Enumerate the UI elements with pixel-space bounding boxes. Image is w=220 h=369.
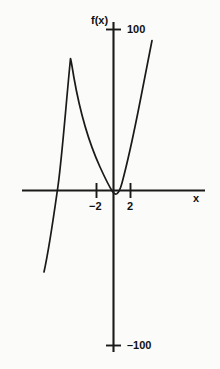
x-axis-label: x <box>193 192 200 204</box>
y-tick-label-100: 100 <box>127 23 145 35</box>
x-tick-label-minus-2: −2 <box>89 200 102 212</box>
x-tick-label-2: 2 <box>127 200 133 212</box>
y-tick-label-minus-100: –100 <box>127 339 151 351</box>
function-curve <box>44 41 152 273</box>
figure-canvas: f(x) 100 –100 −2 2 x <box>0 0 220 369</box>
y-axis-label: f(x) <box>91 14 108 26</box>
function-graph: f(x) 100 –100 −2 2 x <box>0 0 220 369</box>
